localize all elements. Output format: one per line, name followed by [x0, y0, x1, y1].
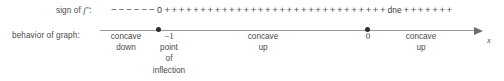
- behavior-cell-zero-marker: 0: [352, 31, 384, 42]
- sign-mark-plus: +: [286, 5, 293, 15]
- behavior-cell-concave-up-left: concave up: [218, 31, 308, 53]
- sign-mark-plus: +: [365, 5, 372, 15]
- sign-mark-plus: +: [379, 5, 386, 15]
- sign-mark-plus: +: [410, 5, 417, 15]
- behavior-line: point: [140, 42, 198, 53]
- sign-mark-plus: +: [300, 5, 307, 15]
- behavior-line: up: [390, 42, 452, 53]
- sign-mark-plus: +: [221, 5, 228, 15]
- sign-mark-zero: 0: [156, 6, 164, 15]
- sign-mark-plus: +: [271, 5, 278, 15]
- sign-chart-figure: sign of f′′: −−−−−−0++++++++++++++++++++…: [0, 0, 504, 81]
- sign-mark-plus: +: [228, 5, 235, 15]
- behavior-row-label: behavior of graph:: [12, 32, 80, 40]
- zero-point-value: 0: [352, 31, 384, 42]
- behavior-line: concave: [390, 31, 452, 42]
- sign-mark-plus: +: [350, 5, 357, 15]
- inflection-point-value: −1: [140, 31, 198, 42]
- sign-mark-minus: −: [118, 5, 126, 15]
- sign-mark-plus: +: [200, 5, 207, 15]
- sign-mark-plus: +: [358, 5, 365, 15]
- sign-mark-minus: −: [133, 5, 141, 15]
- sign-mark-plus: +: [315, 5, 322, 15]
- sign-mark-plus: +: [439, 5, 446, 15]
- sign-mark-plus: +: [207, 5, 214, 15]
- sign-mark-plus: +: [171, 5, 178, 15]
- sign-strip: −−−−−−0+++++++++++++++++++++++++++++++dn…: [110, 4, 453, 16]
- sign-mark-plus: +: [343, 5, 350, 15]
- sign-mark-plus: +: [293, 5, 300, 15]
- sign-row-label: sign of f′′:: [56, 6, 92, 15]
- sign-mark-plus: +: [336, 5, 343, 15]
- sign-mark-plus: +: [329, 5, 336, 15]
- sign-mark-plus: +: [417, 5, 424, 15]
- sign-mark-plus: +: [279, 5, 286, 15]
- sign-mark-plus: +: [164, 5, 171, 15]
- axis-arrow-icon: [474, 27, 483, 35]
- sign-mark-dne: dne: [386, 6, 402, 14]
- sign-row-label-prefix: sign of: [56, 6, 83, 15]
- sign-mark-plus: +: [235, 5, 242, 15]
- behavior-cell-inflection-point: −1 point of inflection: [140, 31, 198, 76]
- sign-mark-plus: +: [372, 5, 379, 15]
- sign-mark-plus: +: [178, 5, 185, 15]
- sign-mark-plus: +: [431, 5, 438, 15]
- behavior-line: of: [140, 53, 198, 64]
- sign-mark-plus: +: [243, 5, 250, 15]
- sign-row-label-colon: :: [89, 6, 91, 15]
- sign-mark-plus: +: [264, 5, 271, 15]
- sign-mark-plus: +: [192, 5, 199, 15]
- behavior-cell-concave-up-right: concave up: [390, 31, 452, 53]
- behavior-line: up: [218, 42, 308, 53]
- sign-mark-minus: −: [110, 5, 118, 15]
- behavior-line: inflection: [140, 65, 198, 76]
- sign-mark-plus: +: [307, 5, 314, 15]
- axis-variable-label: x: [487, 36, 491, 45]
- sign-mark-plus: +: [403, 5, 410, 15]
- sign-mark-plus: +: [250, 5, 257, 15]
- sign-mark-minus: −: [125, 5, 133, 15]
- sign-mark-plus: +: [446, 5, 453, 15]
- sign-mark-minus: −: [140, 5, 148, 15]
- sign-mark-plus: +: [424, 5, 431, 15]
- sign-mark-minus: −: [148, 5, 156, 15]
- sign-mark-plus: +: [257, 5, 264, 15]
- behavior-line: concave: [218, 31, 308, 42]
- sign-mark-plus: +: [214, 5, 221, 15]
- sign-mark-plus: +: [185, 5, 192, 15]
- sign-mark-plus: +: [322, 5, 329, 15]
